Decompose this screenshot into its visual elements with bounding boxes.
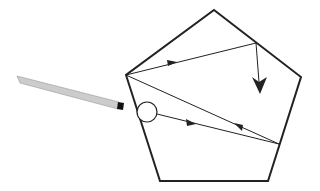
pentagon [126, 10, 301, 181]
ray-2-arrow [234, 123, 243, 131]
light-source [17, 76, 124, 110]
circle-entry [137, 102, 157, 122]
reflection-diagram [0, 0, 320, 191]
ray-1-arrow [186, 119, 196, 126]
light-source-body [17, 76, 119, 109]
ray-4 [256, 43, 259, 82]
ray-4-arrowhead [252, 77, 267, 94]
light-source-tip [117, 102, 124, 110]
ray-1 [157, 114, 279, 144]
ray-3 [126, 43, 256, 75]
